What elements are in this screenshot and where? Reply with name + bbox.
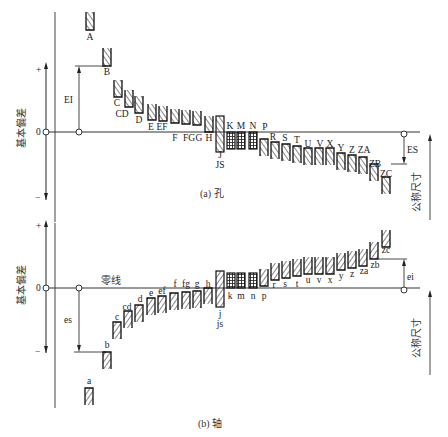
zone-label: c bbox=[115, 312, 119, 322]
plus-sign: + bbox=[36, 221, 41, 231]
zone-label: M bbox=[237, 121, 246, 131]
zone-label: B bbox=[104, 67, 110, 77]
zone-label: n bbox=[251, 291, 256, 301]
arrow-down-icon bbox=[77, 345, 81, 352]
zone-label: D bbox=[136, 115, 143, 125]
zone-label: P bbox=[262, 122, 267, 132]
zone-x: x bbox=[326, 257, 334, 285]
shaft-deviation-zones: abccddeefffgghjjskmnprstuvxyzzazbzc bbox=[85, 230, 390, 405]
zone-label: zc bbox=[382, 245, 390, 255]
zone-label: cd bbox=[123, 302, 132, 312]
es-origin-circle bbox=[76, 285, 82, 291]
arrow-up-icon bbox=[402, 259, 406, 266]
zone-label: h bbox=[206, 279, 211, 289]
arrow-down-icon bbox=[428, 290, 432, 297]
zone-label: EF bbox=[156, 122, 167, 132]
zone-u: u bbox=[304, 257, 312, 285]
arrow-up-icon bbox=[44, 220, 48, 227]
zone-c: C bbox=[114, 80, 122, 108]
zone-js: JJS bbox=[216, 116, 225, 170]
zone-d: D bbox=[135, 96, 143, 125]
zone-label: ef bbox=[158, 286, 166, 296]
zone-k: K bbox=[227, 121, 235, 149]
minus-sign: − bbox=[35, 347, 40, 357]
zone-u: U bbox=[304, 139, 312, 165]
zone-label: zb bbox=[371, 260, 380, 270]
zone-b: b bbox=[103, 340, 111, 369]
zone-v: v bbox=[315, 257, 323, 285]
zone-h: H bbox=[205, 116, 213, 143]
zone-p: p bbox=[260, 269, 268, 301]
zone-label: m bbox=[237, 291, 245, 301]
zone-label: z bbox=[350, 269, 354, 279]
zone-label: JS bbox=[216, 160, 225, 170]
ei-origin-circle bbox=[76, 129, 82, 135]
zone-label: t bbox=[296, 279, 299, 289]
zone-g: g bbox=[193, 279, 201, 308]
zone-label: F bbox=[172, 133, 177, 143]
zone-label: s bbox=[283, 279, 287, 289]
zone-label: R bbox=[270, 132, 277, 142]
zone-label: S bbox=[282, 133, 287, 143]
zone-c: c bbox=[113, 312, 121, 339]
zone-t: t bbox=[293, 259, 301, 289]
zone-y: y bbox=[337, 253, 345, 281]
zone-a: a bbox=[85, 376, 93, 405]
origin-circle bbox=[43, 285, 49, 291]
axis-label-fundamental-deviation: 基本偏差 bbox=[15, 108, 27, 148]
zone-cd: cd bbox=[123, 302, 132, 328]
zone-y: Y bbox=[337, 143, 345, 170]
zone-label: U bbox=[305, 139, 312, 149]
zone-t: T bbox=[293, 135, 301, 163]
zone-label: ZA bbox=[358, 145, 371, 155]
zone-label: js bbox=[216, 319, 224, 329]
zone-label: J bbox=[218, 150, 222, 160]
zone-x: X bbox=[326, 139, 334, 165]
zone-z: z bbox=[348, 251, 356, 279]
zone-label: za bbox=[360, 266, 369, 276]
zone-e: e bbox=[147, 288, 155, 315]
zone-label: A bbox=[87, 32, 94, 42]
zone-label: K bbox=[227, 121, 234, 131]
zero-label: 0 bbox=[36, 127, 41, 137]
zone-label: k bbox=[228, 291, 233, 301]
zone-label: N bbox=[250, 121, 257, 131]
zone-label: b bbox=[105, 340, 110, 350]
zone-label: j bbox=[218, 309, 222, 319]
origin-circle bbox=[43, 129, 49, 135]
fundamental-deviation-diagram: + 0 − 基本偏差 EI ABCCDDEEFFFGGHJJSKMNPRSTUV… bbox=[0, 0, 448, 437]
zone-r: r bbox=[271, 263, 279, 290]
zero-label: 0 bbox=[36, 283, 41, 293]
nominal-size-label: 公称尺寸 bbox=[410, 318, 422, 358]
zone-label: C bbox=[114, 98, 120, 108]
es-label-lower: es bbox=[64, 315, 72, 325]
zone-label: x bbox=[328, 275, 333, 285]
zone-r: R bbox=[270, 132, 279, 159]
zone-label: E bbox=[148, 122, 154, 132]
nominal-size-label: 公称尺寸 bbox=[410, 172, 422, 212]
caption-shafts: (b) 轴 bbox=[198, 417, 222, 430]
zone-d: d bbox=[135, 294, 143, 322]
zone-ef: ef bbox=[158, 286, 167, 313]
zero-line-label: 零线 bbox=[101, 274, 121, 286]
hole-diagram: + 0 − 基本偏差 EI ABCCDDEEFFFGGHJJSKMNPRSTUV… bbox=[15, 12, 432, 222]
arrow-up-icon bbox=[428, 134, 432, 141]
zone-label: T bbox=[294, 135, 300, 145]
zone-label: y bbox=[339, 271, 344, 281]
zone-label: CD bbox=[115, 109, 128, 119]
zone-za: za bbox=[359, 249, 369, 276]
hole-deviation-zones: ABCCDDEEFFFGGHJJSKMNPRSTUVXYZZAZBZC bbox=[86, 12, 392, 194]
zone-m: M bbox=[237, 121, 246, 149]
zone-label: u bbox=[306, 275, 311, 285]
zone-label: ZB bbox=[369, 159, 381, 169]
zone-n: n bbox=[249, 273, 257, 301]
minus-sign: − bbox=[35, 193, 40, 203]
arrow-down-icon bbox=[44, 193, 48, 200]
plus-sign: + bbox=[36, 65, 41, 75]
zone-v: V bbox=[315, 139, 324, 165]
es-origin-circle bbox=[401, 131, 407, 137]
zone-label: G bbox=[196, 133, 203, 143]
zone-label: X bbox=[327, 139, 334, 149]
zone-k: k bbox=[227, 273, 235, 301]
ei-label-lower: ei bbox=[407, 272, 414, 282]
